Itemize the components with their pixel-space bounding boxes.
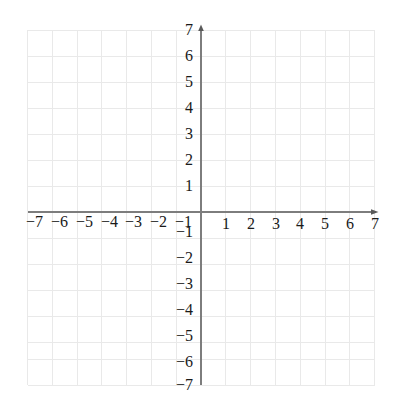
y-tick-label-3: 3 xyxy=(155,126,193,142)
y-tick-label--6: −6 xyxy=(155,354,193,370)
y-tick-label--2: −2 xyxy=(155,250,193,266)
y-tick-label--1: −1 xyxy=(155,224,193,240)
y-axis-line xyxy=(198,25,204,386)
y-tick-label-2: 2 xyxy=(155,152,193,168)
y-tick-label--7: −7 xyxy=(155,377,193,393)
y-axis-arrowhead xyxy=(198,25,204,32)
y-tick-label-5: 5 xyxy=(155,74,193,90)
coordinate-plane: −7 −6 −5 −4 −3 −2 −1 1 2 3 4 5 6 7 7 6 5… xyxy=(0,0,396,406)
y-tick-label-1: 1 xyxy=(155,178,193,194)
y-tick-label--4: −4 xyxy=(155,302,193,318)
y-tick-label-6: 6 xyxy=(155,48,193,64)
x-tick-label-7: 7 xyxy=(360,216,390,232)
y-tick-label--5: −5 xyxy=(155,328,193,344)
coordinate-grid-canvas xyxy=(0,0,396,406)
y-tick-label--3: −3 xyxy=(155,276,193,292)
y-tick-label-7: 7 xyxy=(155,22,193,38)
y-tick-label-4: 4 xyxy=(155,100,193,116)
